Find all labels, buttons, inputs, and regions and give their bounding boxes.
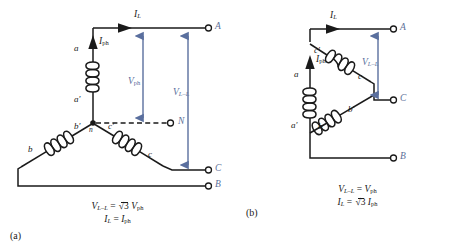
panel-b-terminal-C-label: C (400, 94, 406, 104)
panel-a-line-c (163, 166, 205, 170)
panel-b-line-b (310, 133, 390, 158)
figure-canvas: A C B N n a a′ b′ b c′ c IL Iph Vph VL–L… (0, 0, 449, 249)
panel-b-terminal-A-label: A (400, 23, 406, 33)
panel-b-coil-a (303, 69, 316, 133)
panel-a-phase-current-arrow (88, 35, 97, 49)
panel-b-Iph-label: Iph (316, 55, 326, 65)
panel-a-terminal-A[interactable] (206, 25, 212, 31)
panel-b-VLL-label: VL–L (362, 58, 378, 68)
panel-a-VLL-label: VL–L (173, 88, 189, 98)
panel-a-formula-line-2: IL = Iph (60, 215, 175, 225)
panel-b-phase-current-arrow (305, 55, 314, 69)
panel-b-line-current-arrow (326, 24, 340, 34)
panel-a-terminal-C[interactable] (206, 167, 212, 173)
panel-a-coil-a (86, 49, 99, 123)
pa-f2-eq: = (113, 214, 118, 224)
panel-a-IL-label: IL (134, 10, 141, 20)
panel-a-circuit (18, 23, 212, 189)
panel-a-coil-a-start-label: a (74, 44, 79, 53)
panel-a-terminal-N-label: N (178, 117, 184, 127)
radical-bar-icon (121, 202, 128, 203)
pa-f1-rhs-sub: ph (137, 204, 143, 211)
panel-a-formula-line-1: VL–L = √3 Vph (60, 202, 175, 212)
panel-a-terminal-C-label: C (215, 164, 221, 174)
panel-a-Vph-sub: ph (134, 79, 140, 86)
panel-b-caption: (b) (246, 208, 258, 218)
panel-a-coil-c (95, 125, 163, 167)
pb-f2-rhs-sub: ph (371, 200, 377, 207)
panel-a-coil-b-end-label: b (28, 145, 33, 154)
panel-b-terminal-C[interactable] (391, 97, 397, 103)
panel-a-coil-a-end-label: a′ (74, 95, 80, 104)
panel-b-IL-sub: L (333, 13, 337, 20)
panel-b-terminal-A[interactable] (391, 26, 397, 32)
pb-f1-eq: = (357, 184, 362, 194)
panel-a-Iph-label: Iph (99, 37, 109, 47)
pb-f2-lhs-sub: L (341, 200, 345, 207)
panel-b-terminal-B-label: B (400, 152, 406, 162)
pa-f2-lhs-sub: L (107, 217, 111, 224)
radical-bar-icon-2 (358, 198, 365, 199)
panel-b-VLL-sub: L–L (368, 60, 378, 67)
pb-f2-radicand: 3 (361, 197, 366, 207)
panel-a-terminal-B[interactable] (206, 183, 212, 189)
panel-b-terminal-B[interactable] (391, 155, 397, 161)
pa-f2-rhs-sub: ph (124, 217, 130, 224)
panel-a-node-n-label: n (89, 126, 93, 134)
panel-a-Vph-label: Vph (128, 77, 140, 87)
panel-a-terminal-A-label: A (215, 22, 221, 32)
panel-b-formula-line-2: IL = √3 Iph (300, 198, 415, 208)
panel-a-terminal-N[interactable] (168, 120, 174, 126)
panel-a-VLL-sub: L–L (179, 90, 189, 97)
panel-a-terminal-B-label: B (215, 180, 221, 190)
pa-f1-eq: = (110, 201, 115, 211)
pa-f1-lhs-sub: L–L (97, 204, 107, 211)
panel-a-coil-c-end-label: c (148, 150, 152, 159)
panel-a-caption: (a) (10, 231, 21, 241)
pb-f1-lhs-sub: L–L (344, 187, 354, 194)
panel-b-formula-line-1: VL–L = Vph (300, 185, 415, 195)
panel-a-coil-b-start-label: b′ (74, 122, 80, 131)
panel-a-IL-sub: L (137, 12, 141, 19)
pa-f1-radicand: 3 (124, 201, 129, 211)
panel-a-line-current-arrow (118, 23, 132, 33)
pb-f2-eq: = (347, 197, 352, 207)
panel-b-coil-b-end-label: b′ (348, 105, 354, 114)
panel-b-line-c (371, 82, 390, 100)
pa-f1-radical: √3 (118, 201, 129, 211)
pb-f2-radical: √3 (354, 197, 365, 207)
panel-b-IL-label: IL (330, 11, 337, 21)
panel-b-coil-a-end-label: a′ (291, 121, 297, 130)
panel-b-coil-c-end-label: c (358, 72, 362, 81)
panel-b-Iph-sub: ph (319, 57, 325, 64)
panel-b-coil-b-start-label: b (318, 122, 323, 131)
panel-a-Iph-sub: ph (102, 39, 108, 46)
panel-a-coil-c-start-label: c′ (108, 122, 114, 131)
pb-f1-rhs-sub: ph (370, 187, 376, 194)
panel-b-coil-a-start-label: a (294, 70, 299, 79)
